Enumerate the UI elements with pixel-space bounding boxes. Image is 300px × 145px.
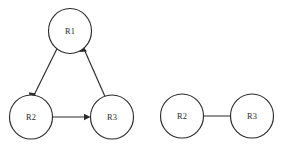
node-r2-right-label: R2	[177, 112, 187, 121]
node-r2-right[interactable]: R2	[161, 94, 204, 138]
edge-line-r1-r2	[34, 48, 58, 96]
right-graph: R2 R3	[161, 94, 274, 138]
node-r2-left-label: R2	[26, 113, 36, 122]
edge-r3-to-r1[interactable]	[80, 45, 106, 97]
edge-r2-to-r3[interactable]	[53, 114, 91, 121]
edge-line-r3-r1	[84, 49, 105, 97]
node-r3-right-label: R3	[247, 112, 257, 121]
graph-diagram: R1 R2 R3 R2	[0, 0, 300, 145]
node-r3-right[interactable]: R3	[231, 94, 274, 138]
node-r2-left[interactable]: R2	[10, 95, 53, 139]
node-r3-left-label: R3	[107, 113, 117, 122]
edge-r1-to-r2[interactable]	[29, 48, 58, 100]
node-r1-left-label: R1	[65, 27, 75, 36]
diagram-canvas: R1 R2 R3 R2	[0, 0, 300, 145]
node-r1-left[interactable]: R1	[49, 9, 92, 54]
node-r3-left[interactable]: R3	[91, 95, 134, 139]
left-graph: R1 R2 R3	[10, 9, 134, 140]
arrowhead-into-r3	[84, 114, 91, 121]
